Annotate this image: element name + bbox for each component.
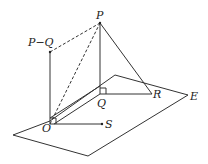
right-angle-q (100, 88, 106, 94)
label-p: P (96, 10, 103, 21)
dashed-o-to-p (50, 23, 100, 124)
label-e: E (190, 91, 198, 102)
line-o-to-q (54, 94, 100, 124)
diagram-canvas (0, 0, 208, 164)
label-r: R (153, 89, 161, 100)
line-o-upper (50, 86, 100, 118)
geometry-diagram: P P−Q Q R O S E (0, 0, 208, 164)
segment-pr (100, 23, 152, 94)
label-q: Q (97, 98, 106, 109)
label-s: S (105, 119, 113, 130)
point-p (99, 22, 101, 24)
label-p-minus-q: P−Q (28, 37, 54, 48)
point-p-minus-q (49, 51, 51, 53)
label-o: O (42, 123, 51, 134)
point-s (101, 123, 103, 125)
